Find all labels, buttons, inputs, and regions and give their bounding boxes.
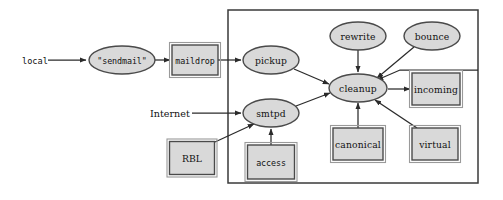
io-label-local: local — [22, 56, 48, 66]
node-maildrop[interactable]: maildrop — [170, 43, 221, 78]
canonical-label: canonical — [335, 139, 381, 150]
edge-pickup-to-cleanup — [294, 69, 329, 84]
rbl-label: RBL — [182, 153, 202, 164]
pickup-label: pickup — [255, 55, 287, 66]
node-rewrite[interactable]: rewrite — [330, 22, 386, 50]
smtpd-label: smtpd — [256, 108, 286, 119]
edge-smtpd-to-cleanup — [296, 93, 330, 106]
edge-virtual-to-cleanup — [375, 100, 417, 128]
diagram-canvas: "sendmail"maildroppickupsmtpdRBLaccessre… — [0, 0, 503, 200]
sendmail-label: "sendmail" — [97, 56, 146, 66]
node-bounce[interactable]: bounce — [404, 22, 460, 50]
incoming-label: incoming — [414, 84, 458, 95]
io-label-internet: Internet — [150, 108, 190, 119]
node-cleanup[interactable]: cleanup — [329, 74, 387, 102]
rewrite-label: rewrite — [340, 31, 375, 42]
access-label: access — [256, 158, 286, 168]
node-access[interactable]: access — [245, 143, 297, 182]
maildrop-label: maildrop — [175, 56, 215, 66]
node-virtual[interactable]: virtual — [410, 126, 461, 163]
mail-flow-diagram: "sendmail"maildroppickupsmtpdRBLaccessre… — [0, 0, 503, 200]
node-canonical[interactable]: canonical — [331, 126, 386, 163]
node-layer: "sendmail"maildroppickupsmtpdRBLaccessre… — [89, 22, 463, 182]
edge-bounce-to-cleanup — [377, 47, 414, 78]
node-smtpd[interactable]: smtpd — [243, 99, 299, 127]
bounce-label: bounce — [415, 31, 450, 42]
edge-rbl-to-smtpd — [215, 124, 254, 142]
virtual-label: virtual — [418, 139, 451, 150]
node-rbl[interactable]: RBL — [167, 139, 217, 177]
node-pickup[interactable]: pickup — [243, 46, 299, 74]
cleanup-label: cleanup — [339, 83, 377, 94]
node-incoming[interactable]: incoming — [410, 71, 463, 108]
node-sendmail[interactable]: "sendmail" — [89, 46, 155, 74]
